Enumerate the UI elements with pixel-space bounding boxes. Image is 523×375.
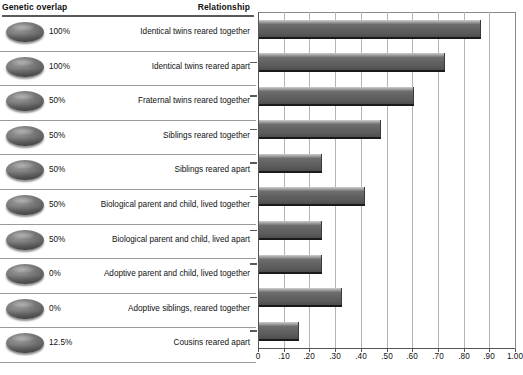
relationship-label: Cousins reared apart (174, 338, 250, 347)
table-row: 50%Biological parent and child, lived ap… (0, 225, 256, 260)
correlation-bar-chart: 0.10.20.30.40.50.60.70.80.901.00 (256, 0, 516, 375)
genetic-overlap-value: 50% (49, 235, 65, 244)
gridline (515, 12, 516, 349)
genetic-overlap-disc-icon (6, 126, 44, 146)
table-row: 50%Siblings reared together (0, 121, 256, 156)
table-row: 100%Identical twins reared apart (0, 52, 256, 87)
tick-label: .80 (458, 352, 469, 361)
relationship-label: Fraternal twins reared together (138, 96, 250, 105)
relationship-label: Adoptive parent and child, lived togethe… (104, 269, 250, 278)
bar-slot (259, 180, 515, 214)
genetic-overlap-disc-icon (6, 91, 44, 111)
genetic-overlap-disc-icon (6, 160, 44, 180)
table-row: 0%Adoptive siblings, reared together (0, 294, 256, 329)
tick-label: .90 (483, 352, 494, 361)
bar-slot (259, 113, 515, 147)
tick-label: 1.00 (507, 352, 523, 361)
disc-gloss (12, 24, 34, 31)
tick-label: .30 (329, 352, 340, 361)
bar-slot (259, 46, 515, 80)
bar (259, 53, 445, 70)
table-row: 50%Siblings reared apart (0, 155, 256, 190)
genetic-overlap-value: 100% (49, 62, 70, 71)
bar-slot (259, 12, 515, 46)
tick-label: .60 (406, 352, 417, 361)
bar-slot (259, 146, 515, 180)
bar (259, 20, 481, 37)
bar (259, 221, 322, 238)
disc-gloss (12, 59, 34, 66)
bar (259, 187, 365, 204)
table-column-headers: Genetic overlap Relationship (0, 0, 256, 16)
bar-series (259, 12, 515, 349)
bar (259, 87, 414, 104)
tick-label: .50 (381, 352, 392, 361)
genetic-overlap-disc-icon (6, 195, 44, 215)
table-row: 12.5%Cousins reared apart (0, 328, 256, 363)
bar (259, 120, 381, 137)
genetic-overlap-disc-icon (6, 333, 44, 353)
relationship-label: Siblings reared apart (174, 165, 250, 174)
genetic-overlap-disc-icon (6, 230, 44, 250)
bar-slot (259, 214, 515, 248)
genetic-overlap-value: 50% (49, 96, 65, 105)
genetic-overlap-disc-icon (6, 22, 44, 42)
column-header-genetic-overlap: Genetic overlap (2, 2, 67, 12)
genetic-overlap-value: 50% (49, 131, 65, 140)
relationship-label: Biological parent and child, lived toget… (101, 200, 250, 209)
bar-slot (259, 314, 515, 348)
genetic-overlap-value: 100% (49, 27, 70, 36)
relationship-table: Genetic overlap Relationship 100%Identic… (0, 0, 256, 375)
genetic-overlap-value: 50% (49, 200, 65, 209)
bar-slot (259, 281, 515, 315)
tick-label: .40 (355, 352, 366, 361)
disc-gloss (12, 197, 34, 204)
plot-area (258, 12, 515, 349)
table-rows: 100%Identical twins reared together100%I… (0, 17, 256, 363)
bar (259, 255, 322, 272)
table-row: 100%Identical twins reared together (0, 17, 256, 52)
genetic-overlap-value: 0% (49, 304, 61, 313)
genetic-overlap-value: 0% (49, 269, 61, 278)
relationship-label: Identical twins reared together (140, 27, 250, 36)
genetic-overlap-value: 50% (49, 165, 65, 174)
column-header-relationship: Relationship (198, 2, 250, 12)
relationship-label: Siblings reared together (163, 131, 250, 140)
tick-label: 0 (256, 352, 261, 361)
disc-gloss (12, 128, 34, 135)
genetic-overlap-disc-icon (6, 299, 44, 319)
tick-label: .10 (278, 352, 289, 361)
bar-slot (259, 79, 515, 113)
relationship-label: Identical twins reared apart (152, 62, 250, 71)
table-row: 50%Fraternal twins reared together (0, 86, 256, 121)
genetic-overlap-disc-icon (6, 264, 44, 284)
bar (259, 154, 322, 171)
relationship-label: Biological parent and child, lived apart (112, 235, 250, 244)
disc-gloss (12, 232, 34, 239)
disc-gloss (12, 301, 34, 308)
tick-label: .20 (303, 352, 314, 361)
x-axis-tick-labels: 0.10.20.30.40.50.60.70.80.901.00 (258, 352, 515, 366)
bar-slot (259, 247, 515, 281)
tick-label: .70 (432, 352, 443, 361)
genetic-overlap-disc-icon (6, 57, 44, 77)
bar (259, 288, 342, 305)
genetic-overlap-value: 12.5% (49, 338, 72, 347)
table-row: 0%Adoptive parent and child, lived toget… (0, 259, 256, 294)
relationship-label: Adoptive siblings, reared together (128, 304, 250, 313)
bar (259, 322, 299, 339)
table-row: 50%Biological parent and child, lived to… (0, 190, 256, 225)
